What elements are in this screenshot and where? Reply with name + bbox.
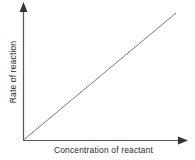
y-axis-arrowhead-icon xyxy=(20,2,28,12)
data-line-series-1 xyxy=(24,13,177,140)
y-axis-label: Rate of reaction xyxy=(8,24,18,120)
x-axis-label: Concentration of reactant xyxy=(0,145,195,155)
rate-vs-concentration-chart: Concentration of reactant Rate of reacti… xyxy=(0,0,195,160)
plot-area xyxy=(0,0,195,160)
x-axis-arrowhead-icon xyxy=(178,137,188,145)
